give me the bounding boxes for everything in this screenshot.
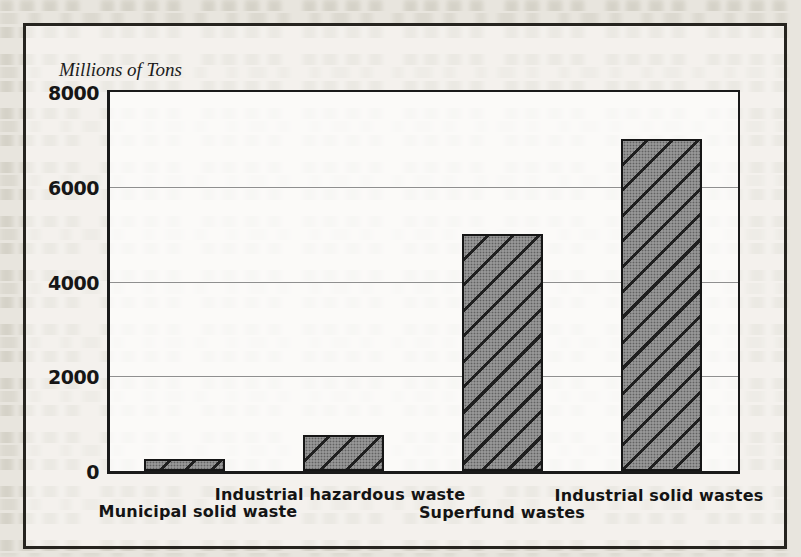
x-category-label-superfund-wastes: Superfund wastes (419, 503, 585, 522)
bar-superfund-wastes (462, 234, 543, 471)
x-category-label-industrial-solid-wastes: Industrial solid wastes (555, 486, 764, 505)
bar-industrial-hazardous-waste (303, 435, 384, 471)
y-tick-label-8000: 8000 (29, 82, 99, 104)
y-tick-label-0: 0 (29, 461, 99, 483)
bar-municipal-solid-waste (144, 459, 225, 471)
y-axis-title: Millions of Tons (59, 59, 182, 81)
y-tick-label-2000: 2000 (29, 366, 99, 388)
bar-industrial-solid-wastes (621, 139, 702, 471)
x-category-label-municipal-solid-waste: Municipal solid waste (99, 502, 298, 521)
scanned-book-page: Millions of Tons 02000400060008000 Munic… (0, 0, 801, 557)
y-tick-label-6000: 6000 (29, 177, 99, 199)
chart-outer-frame: Millions of Tons 02000400060008000 Munic… (23, 23, 787, 549)
y-tick-label-4000: 4000 (29, 272, 99, 294)
plot-area (107, 90, 740, 474)
x-category-label-industrial-hazardous-waste: Industrial hazardous waste (215, 485, 466, 504)
